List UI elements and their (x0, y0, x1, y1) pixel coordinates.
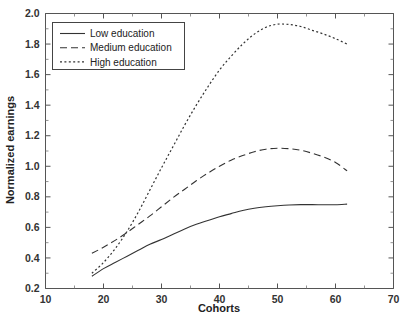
chart-legend: Low educationMedium educationHigh educat… (53, 23, 185, 70)
y-tick-label: 1.6 (25, 68, 40, 80)
series-line-low-education (92, 204, 347, 276)
x-tick-label: 20 (98, 293, 110, 305)
y-tick-label: 1.4 (25, 99, 40, 111)
legend-label: Medium education (90, 42, 172, 53)
y-tick-label: 0.6 (25, 221, 40, 233)
x-tick-label: 70 (388, 293, 400, 305)
y-tick-label: 2.0 (25, 7, 40, 19)
x-tick-label: 10 (40, 293, 52, 305)
legend-label: Low education (90, 28, 155, 39)
x-tick-label: 50 (272, 293, 284, 305)
x-axis-title: Cohorts (198, 302, 240, 314)
legend-label: High education (90, 57, 157, 68)
y-tick-label: 0.8 (25, 190, 40, 202)
x-tick-label: 60 (330, 293, 342, 305)
series-line-medium-education (92, 148, 347, 253)
x-tick-label: 30 (156, 293, 168, 305)
y-axis-title: Normalized earnings (4, 96, 16, 204)
y-tick-label: 1.2 (25, 129, 40, 141)
y-axis-tick-labels: 0.20.40.60.81.01.21.41.61.82.0 (25, 7, 40, 294)
y-tick-label: 1.8 (25, 38, 40, 50)
y-tick-label: 0.4 (25, 252, 40, 264)
line-chart: 10203040506070 0.20.40.60.81.01.21.41.61… (0, 0, 410, 330)
figure-container: 10203040506070 0.20.40.60.81.01.21.41.61… (0, 0, 410, 330)
y-tick-label: 1.0 (25, 160, 40, 172)
y-tick-label: 0.2 (25, 282, 40, 294)
